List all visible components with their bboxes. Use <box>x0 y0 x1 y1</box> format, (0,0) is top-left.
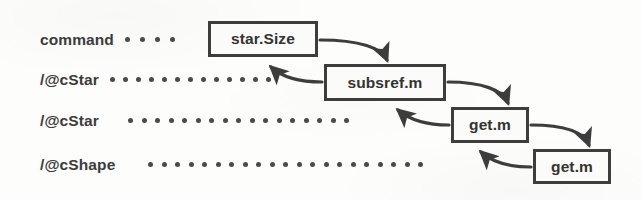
lifeline-dot <box>175 77 180 82</box>
arrow-call-get-to-get2 <box>531 125 589 145</box>
lifeline-dot <box>140 37 145 42</box>
lifeline-dot <box>128 118 133 123</box>
lifeline-dots-cshape <box>148 162 423 167</box>
lifeline-dots-cstar-1 <box>110 77 271 82</box>
lifeline-dot <box>391 162 396 167</box>
lifeline-dot <box>229 162 234 167</box>
lifeline-dot <box>256 162 261 167</box>
lifeline-dot <box>162 77 167 82</box>
lifeline-dot <box>297 162 302 167</box>
lifeline-dot <box>331 118 336 123</box>
lifeline-dot <box>270 162 275 167</box>
arrow-return-get2-to-get <box>481 152 531 167</box>
row-label-cstar-1: /@cStar <box>40 72 99 88</box>
node-box-get-2[interactable]: get.m <box>533 149 611 184</box>
row-label-command: command <box>40 32 114 48</box>
arrow-call-star-size-to-subsref <box>320 40 387 60</box>
lifeline-dot <box>123 77 128 82</box>
arrow-call-subsref-to-get <box>448 82 508 103</box>
lifeline-dot <box>304 118 309 123</box>
lifeline-dot <box>182 118 187 123</box>
lifeline-dot <box>344 118 349 123</box>
lifeline-dot <box>148 162 153 167</box>
lifeline-dot <box>202 162 207 167</box>
lifeline-dot <box>110 77 115 82</box>
row-label-cshape: /@cShape <box>40 157 115 173</box>
lifeline-dot <box>250 118 255 123</box>
diagram-canvas: command /@cStar /@cStar /@cShape star.Si… <box>0 0 642 200</box>
lifeline-dot <box>175 162 180 167</box>
lifeline-dot <box>136 77 141 82</box>
lifeline-dot <box>155 118 160 123</box>
lifeline-dot <box>240 77 245 82</box>
node-box-star-size[interactable]: star.Size <box>208 21 318 57</box>
lifeline-dot <box>364 162 369 167</box>
lifeline-dot <box>201 77 206 82</box>
lifeline-dot <box>310 162 315 167</box>
node-label-star-size: star.Size <box>231 31 295 47</box>
lifeline-dot <box>337 162 342 167</box>
node-box-get-1[interactable]: get.m <box>451 107 529 143</box>
lifeline-dot <box>266 77 271 82</box>
lifeline-dot <box>142 118 147 123</box>
arrow-return-subsref-to-star-size <box>271 67 322 82</box>
lifeline-dot <box>253 77 258 82</box>
node-box-subsref[interactable]: subsref.m <box>324 64 446 101</box>
lifeline-dot <box>149 77 154 82</box>
lifeline-dot <box>227 77 232 82</box>
lifeline-dot <box>209 118 214 123</box>
lifeline-dot <box>263 118 268 123</box>
lifeline-dots-command <box>125 37 175 42</box>
lifeline-dot <box>290 118 295 123</box>
lifeline-dot <box>378 162 383 167</box>
arrow-return-get-to-subsref <box>398 110 449 125</box>
node-label-get-1: get.m <box>469 117 511 133</box>
lifeline-dot <box>243 162 248 167</box>
lifeline-dot <box>317 118 322 123</box>
lifeline-dot <box>189 162 194 167</box>
lifeline-dot <box>170 37 175 42</box>
lifeline-dot <box>277 118 282 123</box>
lifeline-dot <box>324 162 329 167</box>
lifeline-dot <box>216 162 221 167</box>
lifeline-dot <box>418 162 423 167</box>
lifeline-dot <box>351 162 356 167</box>
node-label-subsref: subsref.m <box>348 75 423 91</box>
lifeline-dot <box>214 77 219 82</box>
lifeline-dot <box>169 118 174 123</box>
lifeline-dot <box>155 37 160 42</box>
row-label-cstar-2: /@cStar <box>40 113 99 129</box>
lifeline-dot <box>162 162 167 167</box>
lifeline-dot <box>223 118 228 123</box>
lifeline-dot <box>196 118 201 123</box>
lifeline-dot <box>405 162 410 167</box>
lifeline-dot <box>236 118 241 123</box>
lifeline-dots-cstar-2 <box>128 118 349 123</box>
node-label-get-2: get.m <box>551 159 593 175</box>
lifeline-dot <box>188 77 193 82</box>
lifeline-dot <box>283 162 288 167</box>
lifeline-dot <box>125 37 130 42</box>
